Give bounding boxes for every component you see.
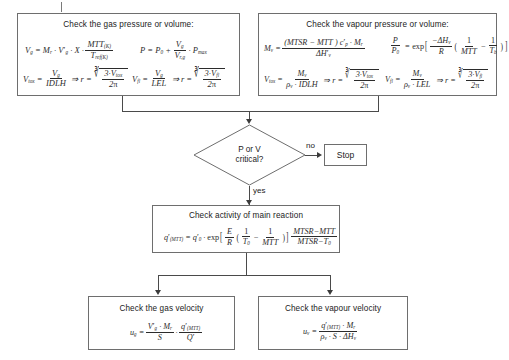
box-gas-pressure-title: Check the gas pressure or volume: <box>18 20 239 30</box>
connector-merge-horizontal <box>122 111 379 112</box>
box-check-gas-velocity: Check the gas velocity ug = V′g · Mr S ·… <box>88 296 235 350</box>
box-vapour-velocity-title: Check the vapour velocity <box>259 304 407 314</box>
box-check-gas-pressure-or-volume: Check the gas pressure or volume: Vg = M… <box>17 13 240 96</box>
eq-vapour-mass: Mv = (MTSR − MTT ) c′p · Mr ΔH′v <box>264 38 366 59</box>
eq-gas-flammable-radius: Vfl = Vg LEL ⇒ r = ∛ 3·Vfl 2π <box>132 68 225 90</box>
eq-vapour-toxic-radius: Vtox = Mv ρv · IDLH ⇒ r = ∛ 3·Vtox 2π <box>264 69 379 90</box>
decision-p-or-v-critical[interactable]: P or V critical? <box>193 124 306 186</box>
eq-vapour-velocity: uv = q′(MTT) · Mr ρv · S · ΔHv <box>303 321 360 342</box>
box-main-reaction-title: Check activity of main reaction <box>153 211 339 221</box>
box-check-vapour-velocity: Check the vapour velocity uv = q′(MTT) ·… <box>258 296 408 350</box>
arrowhead-to-stop <box>317 152 322 158</box>
eq-gas-velocity: ug = V′g · Mr S · q′(MTT) Q′ <box>130 322 204 342</box>
arrowhead-to-vapour-velocity <box>327 290 333 295</box>
box-check-activity-of-main-reaction: Check activity of main reaction q′(MTT) … <box>152 205 340 253</box>
decision-diamond-shape <box>193 124 306 186</box>
eq-gas-pressure: P = P0 + Vg Vr,g · Pmax <box>140 40 207 61</box>
box-stop: Stop <box>324 144 367 166</box>
eq-vapour-flammable-radius: Vfl = Mv ρv · LEL ⇒ r = ∛ 3·Vfl 2π <box>385 69 488 90</box>
eq-clausius-clapeyron: P P0 = exp [ −ΔHv R ( 1 MTT − 1 Tb <box>388 36 508 56</box>
eq-gas-volume: Vg = Mr · V′g · X · MTT(K) Tref(K) <box>25 40 114 61</box>
connector-split-horizontal <box>158 275 330 276</box>
edge-label-yes: yes <box>253 186 265 195</box>
flowchart-canvas: Check the gas pressure or volume: Vg = M… <box>0 0 509 360</box>
connector-vapour-box-down <box>378 96 379 111</box>
arrowhead-to-gas-velocity <box>155 290 161 295</box>
box-check-vapour-pressure-or-volume: Check the vapour pressure or volume: Mv … <box>258 13 497 96</box>
box-gas-velocity-title: Check the gas velocity <box>89 304 234 314</box>
eq-gas-toxic-radius: Vtox = Vg IDLH ⇒ r = ∛ 3·Vtox 2π <box>23 68 128 90</box>
edge-label-no: no <box>306 141 315 150</box>
stop-label: Stop <box>325 145 366 165</box>
top-tick-mark <box>61 2 62 12</box>
box-vapour-pressure-title: Check the vapour pressure or volume: <box>259 20 496 30</box>
eq-main-reaction-activity: q′(MTT) = q′0 · exp [ E R ( 1 T0 − 1 MTT… <box>164 227 339 247</box>
connector-main-reaction-down <box>246 253 247 275</box>
connector-gas-box-down <box>122 96 123 111</box>
